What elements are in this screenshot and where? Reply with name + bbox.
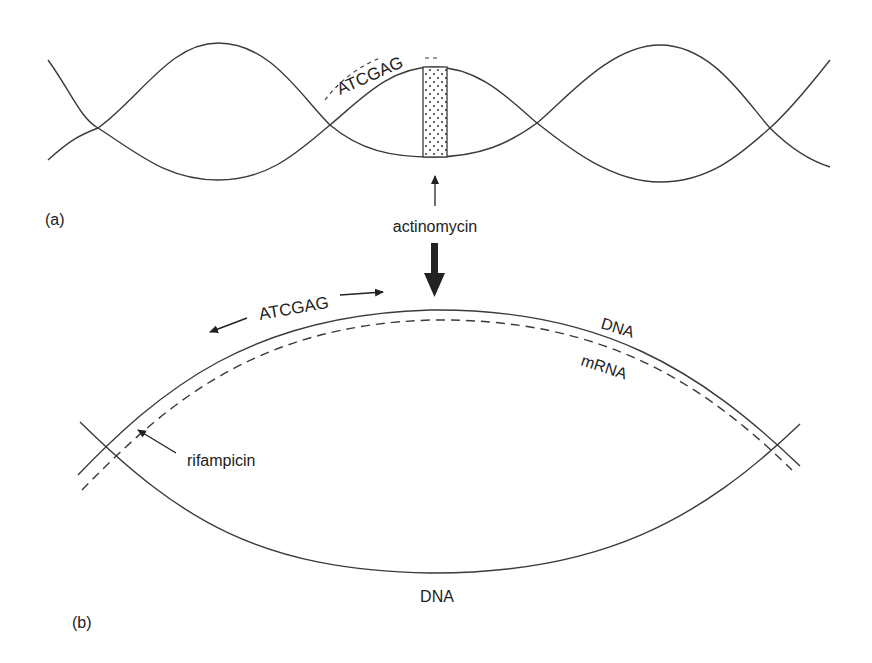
panel-b: ATCGAG DNA mRNA rifampicin DNA (b)	[72, 292, 800, 631]
actinomycin-block	[423, 67, 447, 157]
transition-arrow	[424, 243, 445, 297]
dna-lower-label: DNA	[420, 588, 454, 605]
sequence-right-arrow	[340, 292, 383, 295]
mrna-label: mRNA	[579, 352, 629, 383]
dna-upper-strand	[78, 310, 800, 475]
sequence-left-arrow	[210, 318, 247, 332]
actinomycin-label: actinomycin	[393, 218, 477, 235]
rifampicin-label: rifampicin	[187, 452, 255, 469]
sequence-label-b: ATCGAG	[257, 293, 330, 324]
dna-lower-strand	[80, 422, 800, 573]
panel-a-label: (a)	[45, 211, 65, 228]
panel-b-label: (b)	[72, 614, 92, 631]
transcription-inhibitor-diagram: ATCGAG actinomycin (a) ATCGAG DNA mRNA r…	[0, 0, 872, 663]
rifampicin-pointer-arrow	[138, 430, 176, 453]
panel-a: ATCGAG actinomycin (a)	[45, 43, 830, 235]
